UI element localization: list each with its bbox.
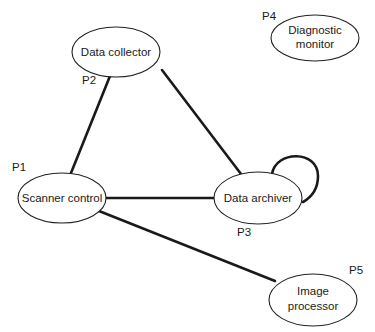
node-name-line-1: Diagnostic [288, 24, 342, 36]
node-data-archiver: Data archiver P3 [214, 172, 302, 238]
process-diagram: Data collector P2 Diagnostic monitor P4 … [0, 0, 375, 332]
process-label: P3 [237, 226, 251, 238]
node-data-collector: Data collector P2 [72, 27, 160, 86]
node-diagnostic-monitor: Diagnostic monitor P4 [262, 10, 359, 61]
process-label: P4 [262, 10, 277, 22]
node-name-line-2: processor [288, 300, 339, 312]
node-name-line-2: monitor [296, 38, 335, 50]
process-label: P2 [82, 74, 96, 86]
node-image-processor: Image processor P5 [269, 264, 363, 326]
node-name: Data archiver [224, 192, 293, 204]
edge-p2-p1 [71, 76, 110, 173]
process-label: P5 [349, 264, 363, 276]
node-name: Scanner control [22, 192, 103, 204]
process-label: P1 [12, 161, 26, 173]
node-scanner-control: Scanner control P1 [12, 161, 106, 223]
node-name-line-1: Image [297, 285, 329, 297]
node-name: Data collector [81, 46, 151, 58]
edge-p2-p3 [162, 70, 241, 174]
